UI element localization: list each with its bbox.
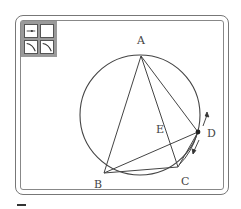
segment-AD — [141, 56, 198, 132]
label-A: A — [137, 35, 145, 46]
label-B: B — [94, 179, 102, 190]
label-C: C — [181, 176, 189, 187]
label-D: D — [207, 128, 216, 139]
point-D-handle[interactable] — [196, 130, 201, 135]
segment-BD — [104, 132, 198, 173]
segment-AB — [104, 56, 141, 173]
bottom-mark — [17, 204, 26, 206]
label-E: E — [156, 124, 164, 135]
segment-AC — [141, 56, 178, 167]
geometry-diagram — [0, 0, 241, 209]
